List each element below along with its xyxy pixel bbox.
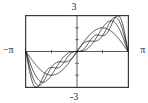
x-max-label: π xyxy=(140,45,145,55)
fourier-series-figure: 3 -3 −π π xyxy=(0,0,148,103)
y-min-label: -3 xyxy=(0,92,148,102)
plot-area xyxy=(25,15,129,88)
plot-svg xyxy=(25,15,129,88)
x-min-label: −π xyxy=(3,45,13,55)
y-max-label: 3 xyxy=(0,2,148,12)
